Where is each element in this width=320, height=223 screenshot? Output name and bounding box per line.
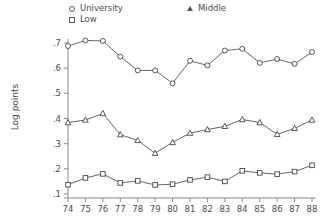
data-point	[275, 172, 280, 177]
data-point	[66, 44, 71, 49]
x-tick-label: 74	[63, 204, 74, 214]
series-low	[66, 163, 315, 187]
x-tick-label: 77	[115, 204, 126, 214]
x-tick-label: 85	[254, 204, 265, 214]
data-point	[188, 58, 193, 63]
series-group	[65, 38, 315, 187]
data-point	[118, 181, 123, 186]
data-point	[135, 68, 140, 73]
y-tick-label: .6	[53, 63, 61, 73]
data-point	[83, 176, 88, 181]
x-tick-label: 82	[202, 204, 213, 214]
data-point	[135, 179, 140, 184]
x-tick-label: 88	[307, 204, 318, 214]
x-tick-label: 79	[150, 204, 161, 214]
x-tick-label: 80	[167, 204, 178, 214]
data-point	[223, 179, 228, 184]
data-point	[170, 139, 176, 144]
data-point	[205, 63, 210, 68]
data-point	[275, 57, 280, 62]
data-point	[205, 175, 210, 180]
data-point	[292, 61, 297, 66]
data-point	[170, 182, 175, 187]
data-point	[83, 38, 88, 43]
x-tick-label: 76	[97, 204, 108, 214]
data-point	[100, 110, 106, 115]
data-point	[100, 38, 105, 43]
data-point	[101, 172, 106, 177]
data-point	[170, 81, 175, 86]
y-tick-label: .3	[53, 139, 61, 149]
x-tick-label: 87	[289, 204, 300, 214]
series-middle	[65, 110, 315, 155]
x-tick-label: 75	[80, 204, 91, 214]
data-point	[240, 46, 245, 51]
data-point	[118, 54, 123, 59]
data-point	[257, 171, 262, 176]
y-tick-label: .1	[53, 189, 61, 199]
x-tick-label: 78	[132, 204, 143, 214]
data-point	[66, 182, 71, 187]
data-point	[292, 169, 297, 174]
data-point	[257, 60, 262, 65]
data-point	[310, 163, 315, 168]
x-tick-label: 81	[185, 204, 196, 214]
y-tick-label: .5	[53, 88, 61, 98]
x-tick-label: 84	[237, 204, 248, 214]
data-point	[222, 48, 227, 53]
data-point	[240, 169, 245, 174]
y-tick-label: .2	[53, 164, 61, 174]
x-tick-group: 747576777879808182838485868788	[63, 198, 318, 214]
data-point	[309, 117, 315, 122]
chart-container: University Low Middle Log points .1.2.3.…	[0, 0, 320, 223]
series-university	[66, 38, 315, 86]
data-point	[292, 125, 298, 130]
data-point	[188, 178, 193, 183]
y-tick-label: .7	[53, 38, 61, 48]
data-point	[310, 50, 315, 55]
data-point	[153, 68, 158, 73]
data-point	[152, 150, 158, 155]
plot-area: .1.2.3.4.5.6.7 7475767778798081828384858…	[0, 0, 320, 223]
x-tick-label: 86	[272, 204, 283, 214]
data-point	[239, 117, 245, 122]
chart-svg: .1.2.3.4.5.6.7 7475767778798081828384858…	[0, 0, 320, 223]
y-tick-group: .1.2.3.4.5.6.7	[53, 38, 68, 199]
data-point	[153, 183, 158, 188]
y-tick-label: .4	[53, 114, 61, 124]
x-tick-label: 83	[219, 204, 230, 214]
